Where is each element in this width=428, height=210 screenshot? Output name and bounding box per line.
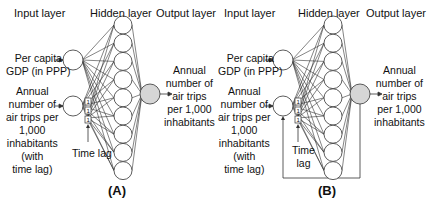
time-lag-label: Time lag (72, 147, 112, 160)
input-layer-header: Input layer (14, 7, 65, 20)
hidden-node (114, 107, 132, 125)
panel-a-feedforward-network: 111 Input layer Hidden layer Output laye… (0, 0, 214, 210)
output-node (350, 84, 370, 104)
output-layer-header: Output layer (366, 7, 426, 20)
hidden-node (324, 125, 342, 143)
panel-b-recurrent-network: 111 Input layer Hidden layer Output laye… (214, 0, 428, 210)
hidden-node (114, 143, 132, 161)
input-label-air-trips: Annualnumber ofair trips per1,000inhabit… (218, 85, 271, 176)
time-lag-arrow-head-icon (86, 124, 90, 128)
input-node-air-trips (63, 96, 83, 116)
hidden-node (324, 162, 342, 180)
hidden-node (114, 89, 132, 107)
time-lag-label: Timelag (292, 144, 315, 170)
hidden-layer-header: Hidden layer (298, 7, 360, 20)
hidden-node (324, 71, 342, 89)
output-label: Annualnumber ofair tripsper 1,000inhabit… (374, 64, 425, 129)
input-layer-header: Input layer (224, 7, 275, 20)
hidden-node (324, 107, 342, 125)
hidden-node (114, 52, 132, 70)
input-node-air-trips (273, 96, 293, 116)
output-layer-header: Output layer (156, 7, 216, 20)
hidden-node (114, 34, 132, 52)
hidden-node (324, 89, 342, 107)
hidden-node (324, 143, 342, 161)
hidden-node (324, 34, 342, 52)
feedback-arrow-head-icon (281, 116, 285, 120)
hidden-node (324, 52, 342, 70)
time-lag-arrow-head-icon (296, 124, 300, 128)
hidden-layer-header: Hidden layer (90, 7, 152, 20)
output-node (140, 84, 160, 104)
output-label: Annualnumber ofair tripsper 1,000inhabit… (164, 64, 215, 129)
hidden-node (114, 125, 132, 143)
input-label-gdp: Per capitaGDP (in PPP) (6, 52, 71, 78)
hidden-node (114, 162, 132, 180)
panel-caption-a: (A) (108, 183, 126, 198)
hidden-node (114, 71, 132, 89)
input-label-air-trips: Annualnumber ofair trips per1,000inhabit… (6, 85, 59, 176)
input-label-gdp: Per capitaGDP (in PPP) (218, 52, 283, 78)
panel-caption-b: (B) (318, 183, 336, 198)
